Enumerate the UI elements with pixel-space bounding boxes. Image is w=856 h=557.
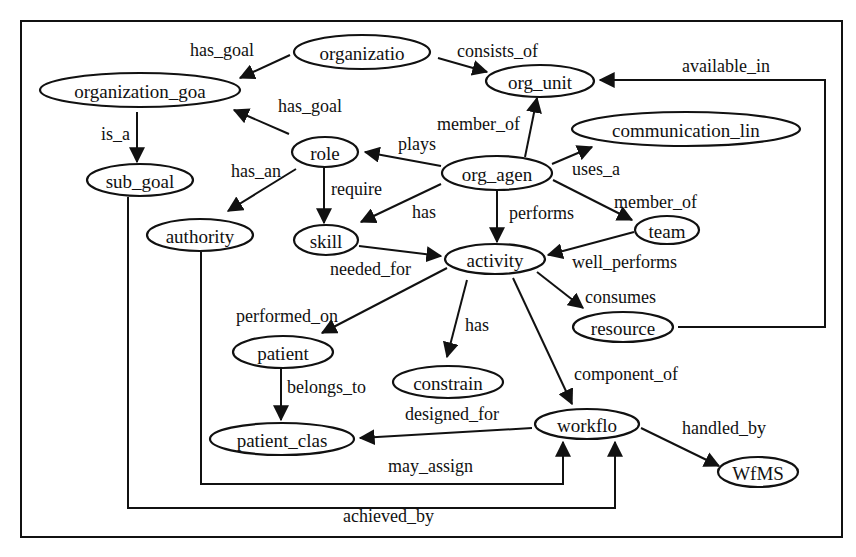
edge-label: has_an xyxy=(231,161,281,181)
ontology-diagram: organizatioorg_unitorganization_goaroles… xyxy=(0,0,856,557)
edge-label: member_of xyxy=(437,114,520,134)
node-communication-lin: communication_lin xyxy=(572,112,800,146)
node-label: role xyxy=(310,143,340,164)
edge-needed-for xyxy=(359,246,441,256)
node-constrain: constrain xyxy=(393,366,503,398)
edge-label: handled_by xyxy=(682,418,766,438)
node-wfms: WfMS xyxy=(718,457,798,487)
node-patient-clas: patient_clas xyxy=(210,423,354,455)
edge-has xyxy=(447,280,467,357)
edge-plays xyxy=(365,152,441,166)
edge-label: consists_of xyxy=(457,41,538,61)
node-label: org_unit xyxy=(508,72,573,93)
edge-label: consumes xyxy=(585,287,656,307)
edge-label: may_assign xyxy=(388,456,473,476)
node-label: patient_clas xyxy=(237,430,328,451)
edge-component-of xyxy=(513,278,572,404)
node-org-unit: org_unit xyxy=(486,65,594,97)
edge-label: has xyxy=(465,315,489,335)
node-label: patient xyxy=(257,343,309,364)
node-label: team xyxy=(649,221,686,242)
node-label: constrain xyxy=(413,373,483,394)
edge-label: is_a xyxy=(101,124,130,144)
edge-label: designed_for xyxy=(405,404,499,424)
node-label: skill xyxy=(310,231,343,252)
node-label: organization_goa xyxy=(74,81,206,102)
edge-label: uses_a xyxy=(572,159,620,179)
edge-label: require xyxy=(331,179,382,199)
edge-member-of xyxy=(525,98,537,157)
edge-consumes xyxy=(537,272,583,308)
node-label: activity xyxy=(467,250,524,271)
edge-label: member_of xyxy=(614,192,697,212)
edge-label: performs xyxy=(509,203,574,223)
edge-label: has_goal xyxy=(278,96,342,116)
node-team: team xyxy=(635,216,699,244)
node-skill: skill xyxy=(294,225,358,255)
node-org-agen: org_agen xyxy=(442,156,552,190)
node-label: org_agen xyxy=(462,164,533,185)
node-activity: activity xyxy=(445,244,545,274)
node-label: workflo xyxy=(557,415,617,436)
edge-label: has_goal xyxy=(190,40,254,60)
edge-label: component_of xyxy=(574,364,678,384)
edge-designed-for xyxy=(360,428,532,438)
edge-label: achieved_by xyxy=(343,506,434,526)
edge-label: has xyxy=(412,202,436,222)
node-organizatio: organizatio xyxy=(294,35,430,69)
node-authority: authority xyxy=(147,219,253,251)
node-label: resource xyxy=(591,318,655,339)
node-role: role xyxy=(292,137,358,167)
node-label: communication_lin xyxy=(612,120,760,141)
edge-label: needed_for xyxy=(330,259,411,279)
node-patient: patient xyxy=(233,336,333,368)
node-label: sub_goal xyxy=(106,171,175,192)
node-label: WfMS xyxy=(732,463,784,484)
node-workflo: workflo xyxy=(535,409,639,439)
node-resource: resource xyxy=(573,312,673,342)
node-sub-goal: sub_goal xyxy=(87,164,193,196)
node-label: authority xyxy=(166,226,235,247)
node-label: organizatio xyxy=(319,43,404,64)
edge-label: available_in xyxy=(682,56,770,76)
edge-label: plays xyxy=(398,134,436,154)
edge-label: well_performs xyxy=(572,252,677,272)
edge-label: belongs_to xyxy=(287,377,366,397)
node-organization-goa: organization_goa xyxy=(40,73,240,107)
edge-label: performed_on xyxy=(236,306,338,326)
